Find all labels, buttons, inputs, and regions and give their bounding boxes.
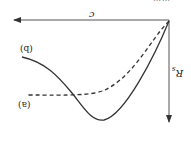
y-axis-label: Rs xyxy=(172,65,183,78)
curve-a-dashed xyxy=(27,21,169,95)
curve-b-solid xyxy=(22,21,169,120)
figure: …… c Rs (b) (a) xyxy=(0,0,191,143)
curve-b-label: (b) xyxy=(20,44,33,53)
diagram-canvas xyxy=(0,0,191,143)
curve-a-label: (a) xyxy=(18,100,30,109)
x-axis-label: c xyxy=(89,10,95,20)
